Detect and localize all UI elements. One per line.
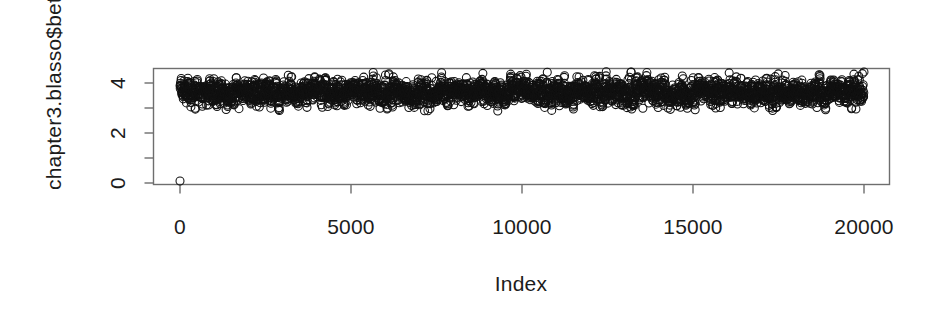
r-plot-figure: chapter3.blasso$beta[ 4 2 0 0 5000 10000… (0, 0, 942, 316)
y-tick-label-0: 0 (106, 177, 130, 189)
x-tick-label-5000: 5000 (327, 215, 375, 239)
y-axis-title: chapter3.blasso$beta[ (42, 0, 66, 190)
x-tick-label-20000: 20000 (834, 215, 893, 239)
x-tick-label-15000: 15000 (663, 215, 722, 239)
x-axis-title: Index (495, 272, 547, 296)
scatter-plot-canvas (0, 0, 942, 316)
x-tick-label-0: 0 (174, 215, 186, 239)
y-tick-label-2: 2 (106, 127, 130, 139)
plot-background (0, 0, 942, 316)
x-tick-label-10000: 10000 (492, 215, 551, 239)
y-tick-label-4: 4 (106, 77, 130, 89)
